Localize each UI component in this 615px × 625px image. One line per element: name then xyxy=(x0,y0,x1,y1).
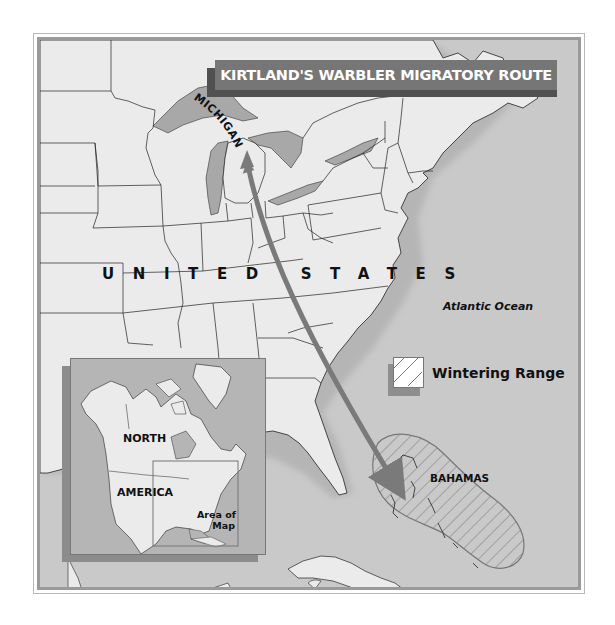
area-label-line2: Map xyxy=(197,520,235,531)
inset-north-america xyxy=(71,359,265,554)
inset-label-area-of-map: Area of Map xyxy=(197,509,235,531)
bahamas-label: BAHAMAS xyxy=(430,472,489,484)
legend-hatch-swatch xyxy=(393,357,424,388)
inset-map: NORTH AMERICA Area of Map xyxy=(70,358,266,555)
atlantic-ocean-label: Atlantic Ocean xyxy=(443,300,533,313)
map-title: KIRTLAND'S WARBLER MIGRATORY ROUTE xyxy=(215,60,557,90)
legend-label-wintering-range: Wintering Range xyxy=(432,365,565,381)
hatch-pattern-icon xyxy=(394,358,422,386)
area-label-line1: Area of xyxy=(197,509,235,520)
inset-label-north: NORTH xyxy=(123,432,166,445)
inset-label-america: AMERICA xyxy=(117,486,173,499)
united-states-label: UNITED STATES xyxy=(102,265,474,283)
